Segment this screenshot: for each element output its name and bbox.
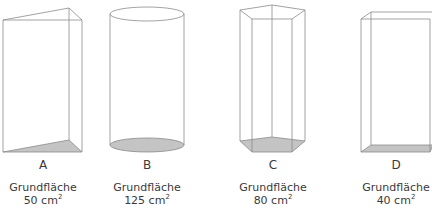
area-value: 50 cm2 (0, 194, 93, 207)
solid-a-caption: Grundfläche 50 cm2 (0, 181, 93, 207)
solid-a-letter: A (0, 158, 93, 172)
solid-b-letter: B (97, 158, 197, 172)
solid-c-letter: C (223, 158, 323, 172)
caption-word: Grundfläche (0, 181, 93, 194)
solids-diagram (0, 0, 432, 208)
caption-word: Grundfläche (346, 181, 432, 194)
solid-b-caption: Grundfläche 125 cm2 (97, 181, 197, 207)
solid-c-pentagonal-prism (240, 5, 305, 152)
solid-c-caption: Grundfläche 80 cm2 (223, 181, 323, 207)
solid-d-letter: D (346, 158, 432, 172)
solid-d-rectangular-prism (361, 12, 432, 152)
solid-b-cylinder (110, 7, 184, 152)
area-value: 40 cm2 (346, 194, 432, 207)
area-value: 80 cm2 (223, 194, 323, 207)
area-value: 125 cm2 (97, 194, 197, 207)
caption-word: Grundfläche (97, 181, 197, 194)
solid-d-caption: Grundfläche 40 cm2 (346, 181, 432, 207)
caption-word: Grundfläche (223, 181, 323, 194)
solid-a-triangular-prism (3, 8, 82, 152)
